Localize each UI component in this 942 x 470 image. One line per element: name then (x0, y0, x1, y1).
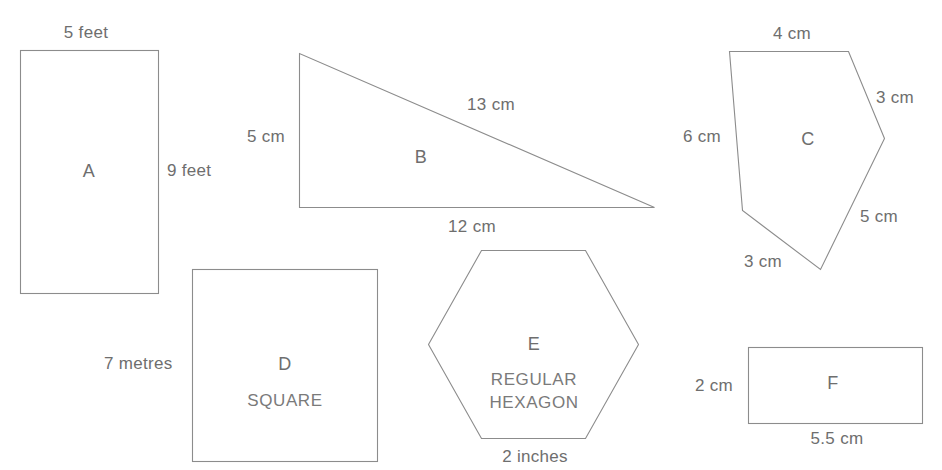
label-c-interior: C (801, 130, 814, 148)
label-e-interior: E (528, 335, 540, 353)
label-c-left-side: 6 cm (683, 128, 721, 145)
label-e-sublabel-line1: REGULAR (491, 371, 577, 388)
label-b-left-side: 5 cm (247, 128, 285, 145)
label-b-interior: B (415, 148, 427, 166)
shape-triangle-b (300, 54, 655, 208)
label-a-height: 9 feet (167, 162, 211, 179)
label-d-side: 7 metres (104, 355, 173, 372)
label-d-interior: D (278, 355, 291, 373)
label-c-top-side: 4 cm (773, 25, 811, 42)
shape-pentagon-c (730, 52, 885, 270)
label-c-lower-right-side: 5 cm (860, 208, 898, 225)
label-f-width: 5.5 cm (811, 430, 864, 447)
label-e-sublabel-line2: HEXAGON (489, 394, 578, 411)
label-a-width: 5 feet (64, 24, 108, 41)
label-c-upper-right-side: 3 cm (876, 89, 914, 106)
label-d-sublabel: SQUARE (247, 392, 322, 409)
label-c-bottom-side: 3 cm (744, 253, 782, 270)
label-f-interior: F (827, 374, 838, 392)
label-a-interior: A (83, 162, 95, 180)
worksheet-canvas: 5 feet 9 feet A 5 cm 13 cm 12 cm B 4 cm … (0, 0, 942, 470)
label-b-hypotenuse: 13 cm (467, 96, 515, 113)
label-e-side: 2 inches (502, 448, 568, 465)
label-f-height: 2 cm (695, 377, 733, 394)
label-b-base: 12 cm (448, 218, 496, 235)
